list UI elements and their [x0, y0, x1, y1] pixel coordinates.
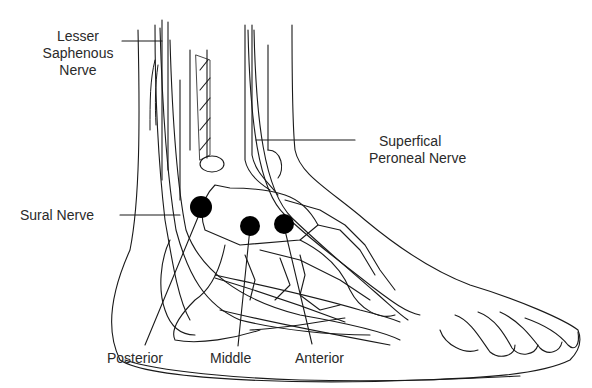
lesser-saphenous-label: Lesser Saphenous Nerve: [30, 28, 126, 79]
anterior-point: [274, 214, 294, 234]
middle-label: Middle: [210, 350, 251, 367]
sural-nerve-label: Sural Nerve: [20, 207, 94, 224]
label-line: Nerve: [30, 62, 126, 79]
label-line: Peroneal Nerve: [369, 150, 466, 167]
posterior-label: Posterior: [107, 350, 163, 367]
anterior-label: Anterior: [295, 350, 344, 367]
label-line: Superfical: [369, 133, 466, 150]
middle-leader: [238, 228, 250, 346]
middle-point: [240, 216, 260, 236]
label-line: Saphenous: [30, 45, 126, 62]
posterior-point: [190, 196, 212, 218]
label-line: Lesser: [30, 28, 126, 45]
superficial-peroneal-label: Superfical Peroneal Nerve: [369, 133, 466, 167]
foot-nerve-diagram: Lesser Saphenous Nerve Superfical Perone…: [0, 0, 592, 388]
